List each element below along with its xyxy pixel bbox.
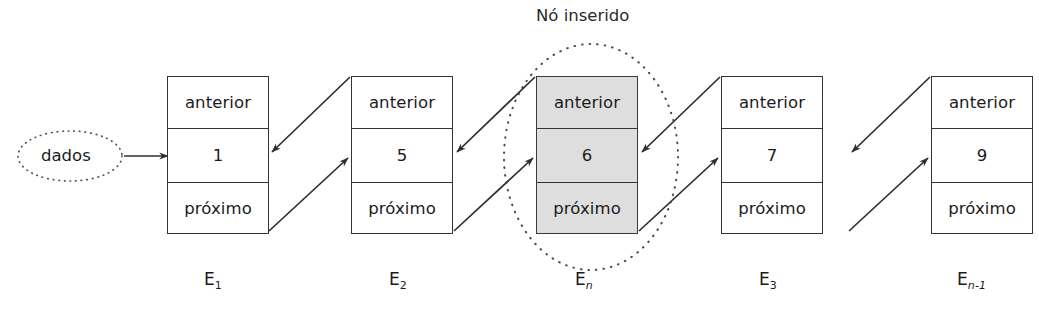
- node-inserted-caption: En: [575, 269, 593, 292]
- node-3: anterior 7 próximo: [721, 76, 823, 234]
- prev-pointer-node2-to-node1: [272, 77, 350, 152]
- node-3-caption-main: E: [759, 269, 770, 289]
- node-4-value-cell: 9: [932, 129, 1032, 183]
- node-inserted-next-cell: próximo: [537, 183, 637, 233]
- node-3-caption-sub: 3: [770, 279, 777, 292]
- next-pointer-node2-to-nodeN: [454, 158, 533, 231]
- node-1-value-cell: 1: [168, 129, 268, 183]
- node-2-caption-sub: 2: [400, 279, 407, 292]
- node-1-next-cell: próximo: [168, 183, 268, 233]
- node-1-caption: E1: [204, 269, 222, 292]
- node-3-next-cell: próximo: [722, 183, 822, 233]
- node-4-prev-cell: anterior: [932, 77, 1032, 129]
- node-3-caption: E3: [759, 269, 777, 292]
- inserted-node-annotation: Nó inserido: [536, 6, 629, 25]
- node-4-caption-sub: n-1: [968, 279, 987, 292]
- node-inserted-caption-main: E: [575, 269, 586, 289]
- node-4-next-cell: próximo: [932, 183, 1032, 233]
- node-1-prev-cell: anterior: [168, 77, 268, 129]
- node-inserted-prev-cell: anterior: [537, 77, 637, 129]
- next-pointer-node3-to-node4: [849, 158, 928, 231]
- next-pointer-nodeN-to-node3: [639, 158, 718, 231]
- linked-list-diagram: Nó inserido dados anterior 1 próximo ant…: [0, 0, 1039, 321]
- node-4-caption-main: E: [957, 269, 968, 289]
- node-1-caption-main: E: [204, 269, 215, 289]
- node-2-value-cell: 5: [352, 129, 452, 183]
- prev-pointer-node3-to-nodeN: [642, 77, 720, 152]
- node-2-caption-main: E: [389, 269, 400, 289]
- node-2-caption: E2: [389, 269, 407, 292]
- node-2-prev-cell: anterior: [352, 77, 452, 129]
- node-4-caption: En-1: [957, 269, 986, 292]
- node-inserted: anterior 6 próximo: [536, 76, 638, 234]
- node-1-caption-sub: 1: [215, 279, 222, 292]
- prev-pointer-node4-to-node3: [852, 77, 930, 152]
- node-3-prev-cell: anterior: [722, 77, 822, 129]
- node-1: anterior 1 próximo: [167, 76, 269, 234]
- node-3-value-cell: 7: [722, 129, 822, 183]
- node-inserted-value-cell: 6: [537, 129, 637, 183]
- node-inserted-caption-sub: n: [586, 279, 593, 292]
- dados-label: dados: [41, 146, 91, 165]
- node-2-next-cell: próximo: [352, 183, 452, 233]
- next-pointer-node1-to-node2: [269, 158, 348, 231]
- node-4: anterior 9 próximo: [931, 76, 1033, 234]
- connector-layer: [0, 0, 1039, 321]
- prev-pointer-nodeN-to-node2: [457, 77, 535, 152]
- node-2: anterior 5 próximo: [351, 76, 453, 234]
